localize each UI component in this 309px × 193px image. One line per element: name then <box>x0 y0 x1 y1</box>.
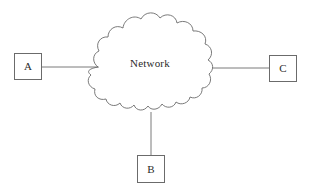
node-label-b: B <box>147 164 154 175</box>
network-diagram: Network A C B <box>0 0 309 193</box>
node-label-c: C <box>279 63 286 74</box>
node-box-a[interactable]: A <box>14 53 42 80</box>
node-box-b[interactable]: B <box>137 155 165 183</box>
cloud-label: Network <box>111 57 189 69</box>
node-box-c[interactable]: C <box>269 55 297 82</box>
node-label-a: A <box>24 61 32 72</box>
